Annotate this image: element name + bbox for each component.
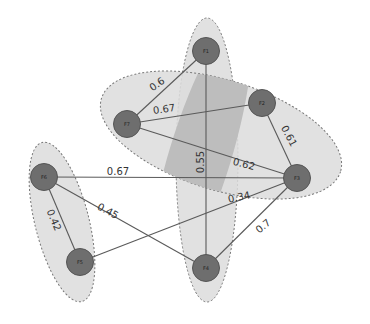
node-label: F6 <box>41 174 47 180</box>
node-label: F1 <box>203 48 209 54</box>
cluster-cluster-left <box>16 136 108 308</box>
edge-weight-F1-F4: 0.55 <box>195 151 206 173</box>
node-F4: F4 <box>193 255 220 282</box>
node-label: F4 <box>203 265 209 271</box>
edge-weight-F3-F4: 0.7 <box>253 217 272 236</box>
node-F6: F6 <box>31 164 58 191</box>
edge-weight-F6-F4: 0.45 <box>96 201 121 221</box>
edge-weight-F6-F3: 0.67 <box>107 166 129 177</box>
node-F1: F1 <box>193 38 220 65</box>
node-F2: F2 <box>249 90 276 117</box>
node-label: F7 <box>124 121 130 127</box>
node-label: F3 <box>294 175 300 181</box>
node-F3: F3 <box>284 165 311 192</box>
node-label: F2 <box>259 100 265 106</box>
graph-diagram: 0.60.670.610.620.550.670.340.450.420.7 F… <box>0 0 370 324</box>
node-F7: F7 <box>114 111 141 138</box>
node-F5: F5 <box>67 249 94 276</box>
node-label: F5 <box>77 259 83 265</box>
